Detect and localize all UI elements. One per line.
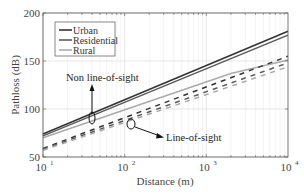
- x-tick-label: 10: [281, 161, 293, 173]
- y-axis-label: Pathloss (dB): [9, 55, 22, 115]
- y-tick-label: 200: [24, 7, 41, 19]
- pathloss-chart: 10110210310450100150200 UrbanResidential…: [0, 0, 304, 195]
- y-tick-label: 50: [29, 151, 41, 163]
- arrow-head-icon: [90, 84, 95, 91]
- arrow-head-icon: [156, 133, 164, 139]
- x-tick-exponent: 2: [132, 159, 136, 167]
- legend-label: Rural: [73, 45, 95, 56]
- x-tick-label: 10: [199, 161, 211, 173]
- x-tick-exponent: 1: [50, 159, 54, 167]
- legend: UrbanResidentialRural: [55, 22, 118, 56]
- annotation-los: Line-of-sight: [127, 119, 221, 143]
- annotation-nlos-label: Non line-of-sight: [66, 72, 139, 83]
- x-tick-exponent: 3: [213, 159, 217, 167]
- x-axis-label: Distance (m): [136, 175, 193, 188]
- x-tick-label: 10: [117, 161, 129, 173]
- x-tick-exponent: 4: [295, 159, 299, 167]
- y-tick-label: 150: [24, 55, 41, 67]
- annotation-los-label: Line-of-sight: [166, 132, 221, 143]
- annotation-arrow: [135, 127, 160, 136]
- y-tick-label: 100: [24, 103, 41, 115]
